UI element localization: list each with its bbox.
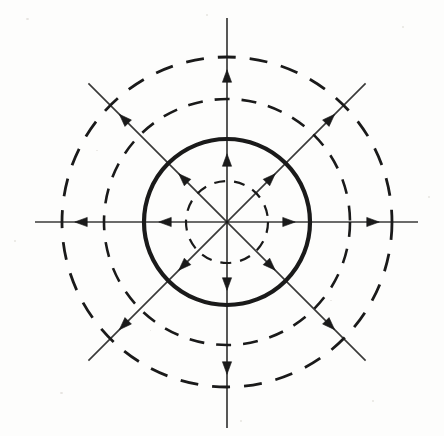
phase-portrait-figure (0, 0, 444, 436)
phase-portrait-canvas (0, 0, 444, 436)
